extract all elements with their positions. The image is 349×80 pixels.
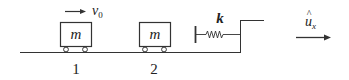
spring-constant-label: k: [216, 10, 224, 26]
velocity-label: v0: [92, 3, 103, 20]
wheel-icon: [64, 47, 69, 52]
spring-coil-icon: [196, 31, 240, 38]
cart-1-number-label: 1: [72, 61, 80, 77]
wall: [240, 20, 264, 53]
diagram-canvas: m 1 m 2 v0 k ^ ux: [0, 0, 349, 80]
wheel-icon: [162, 47, 167, 52]
cart-1-mass-label: m: [71, 26, 82, 42]
wheel-icon: [83, 47, 88, 52]
spring: [196, 26, 241, 43]
unit-vector-arrow-icon: [296, 35, 331, 41]
cart-2: m: [140, 23, 171, 52]
unit-vector-label: ux: [305, 14, 316, 31]
cart-2-mass-label: m: [150, 26, 161, 42]
velocity-arrow-icon: [65, 9, 86, 14]
cart-2-number-label: 2: [150, 61, 158, 77]
wheel-icon: [143, 47, 148, 52]
cart-1: m: [61, 23, 92, 52]
